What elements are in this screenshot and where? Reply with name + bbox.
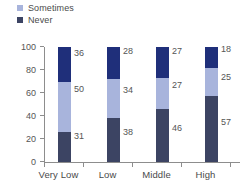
y-tick-label-100: 100 bbox=[21, 42, 36, 51]
bar-segment-top bbox=[58, 47, 71, 82]
y-tick-label-60: 60 bbox=[26, 88, 36, 97]
legend-swatch-never bbox=[17, 17, 23, 23]
bar-label-high-sometimes: 25 bbox=[221, 73, 231, 82]
legend-item-sometimes: Sometimes bbox=[17, 2, 74, 13]
plot-area: 0 20 40 60 80 100 31 50 36 bbox=[44, 47, 240, 163]
bar-low[interactable] bbox=[107, 47, 120, 162]
bar-segment-sometimes bbox=[107, 79, 120, 118]
bar-segment-never bbox=[58, 132, 71, 162]
y-tick-40: 40 bbox=[40, 115, 44, 116]
x-axis-label-middle: Middle bbox=[132, 169, 181, 180]
chart-legend: Sometimes Never bbox=[17, 2, 74, 26]
bar-label-high-top: 18 bbox=[221, 45, 231, 54]
bar-segment-sometimes bbox=[205, 68, 218, 97]
bar-high[interactable] bbox=[205, 47, 218, 162]
bar-label-very-low-sometimes: 50 bbox=[74, 85, 84, 94]
x-axis-label-high: High bbox=[181, 169, 230, 180]
y-tick-label-0: 0 bbox=[31, 157, 36, 166]
bar-label-low-never: 38 bbox=[123, 128, 133, 137]
bar-label-very-low-never: 31 bbox=[74, 132, 84, 141]
bar-label-middle-never: 46 bbox=[172, 124, 182, 133]
bar-label-low-sometimes: 34 bbox=[123, 86, 133, 95]
bar-label-very-low-top: 36 bbox=[74, 49, 84, 58]
x-tick-3 bbox=[181, 163, 182, 167]
x-axis-label-low: Low bbox=[83, 169, 132, 180]
y-tick-80: 80 bbox=[40, 69, 44, 70]
bar-label-high-never: 57 bbox=[221, 118, 231, 127]
bar-middle[interactable] bbox=[156, 47, 169, 162]
x-axis-line bbox=[44, 162, 240, 163]
legend-label-never: Never bbox=[28, 15, 53, 25]
bar-segment-sometimes bbox=[156, 78, 169, 109]
bar-segment-top bbox=[107, 47, 120, 79]
y-tick-0: 0 bbox=[40, 161, 44, 162]
bar-label-low-top: 28 bbox=[123, 47, 133, 56]
x-tick-2 bbox=[132, 163, 133, 167]
stacked-bar-chart: Sometimes Never 0 20 40 60 80 100 bbox=[0, 0, 251, 186]
y-axis-line bbox=[44, 47, 45, 163]
x-tick-0 bbox=[44, 163, 45, 167]
legend-swatch-sometimes bbox=[17, 5, 23, 11]
bar-segment-never bbox=[156, 109, 169, 162]
x-tick-4 bbox=[230, 163, 231, 167]
legend-item-never: Never bbox=[17, 14, 74, 25]
bar-segment-sometimes bbox=[58, 82, 71, 131]
y-tick-label-40: 40 bbox=[26, 111, 36, 120]
legend-label-sometimes: Sometimes bbox=[28, 3, 74, 13]
y-tick-60: 60 bbox=[40, 92, 44, 93]
y-tick-100: 100 bbox=[40, 46, 44, 47]
y-tick-label-80: 80 bbox=[26, 65, 36, 74]
bar-segment-top bbox=[205, 47, 218, 68]
bar-segment-never bbox=[107, 118, 120, 162]
y-tick-label-20: 20 bbox=[26, 134, 36, 143]
bar-label-middle-top: 27 bbox=[172, 47, 182, 56]
x-axis-label-very-low: Very Low bbox=[34, 169, 83, 180]
x-tick-1 bbox=[83, 163, 84, 167]
bar-segment-never bbox=[205, 96, 218, 162]
bar-label-middle-sometimes: 27 bbox=[172, 81, 182, 90]
bar-very-low[interactable] bbox=[58, 47, 71, 162]
bar-segment-top bbox=[156, 47, 169, 78]
y-tick-20: 20 bbox=[40, 138, 44, 139]
